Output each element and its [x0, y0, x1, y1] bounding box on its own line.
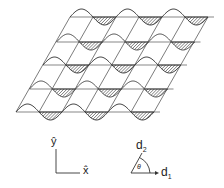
lattice-line	[62, 17, 116, 112]
lattice-line	[16, 17, 70, 112]
theta-label: θ	[137, 163, 141, 170]
wave-crest	[108, 104, 131, 112]
wave-trough-shaded	[85, 112, 108, 120]
lattice-line	[154, 17, 208, 112]
wave-trough-shaded	[99, 89, 122, 97]
wave-trough-shaded	[139, 17, 162, 25]
d2-symbol: d	[136, 138, 143, 152]
wave-trough-shaded	[145, 89, 168, 97]
lattice-line	[39, 17, 93, 112]
wave-crest	[116, 9, 139, 17]
lattice-lines	[16, 17, 208, 112]
wave-crest	[62, 104, 85, 112]
wave-trough-shaded	[93, 17, 116, 25]
wave-crest	[16, 104, 39, 112]
wave-rows	[16, 9, 214, 120]
d1-label: d1	[161, 166, 172, 180]
x-axis-label: x̂	[83, 165, 89, 176]
d1-arrowhead-icon	[155, 171, 159, 175]
wave-trough-shaded	[66, 65, 89, 73]
wave-trough-shaded	[126, 42, 149, 50]
wave-trough-shaded	[185, 17, 208, 25]
lattice-vector-angle-icon	[131, 153, 155, 173]
lattice-line	[85, 17, 139, 112]
lattice-line	[131, 17, 185, 112]
wave-crest	[162, 9, 185, 17]
lattice-line	[108, 17, 162, 112]
d1-subscript: 1	[168, 173, 172, 180]
xy-axes-icon	[56, 149, 80, 173]
y-axis-label: ŷ	[51, 136, 57, 147]
lattice-diagram	[0, 0, 224, 188]
d1-symbol: d	[161, 165, 168, 179]
wave-trough-shaded	[80, 42, 103, 50]
wave-crest	[70, 9, 93, 17]
wave-trough-shaded	[112, 65, 135, 73]
wave-trough-shaded	[158, 65, 181, 73]
wave-trough-shaded	[53, 89, 76, 97]
d2-label: d2	[136, 139, 147, 153]
wave-trough-shaded	[39, 112, 62, 120]
wave-trough-shaded	[131, 112, 154, 120]
wave-trough-shaded	[172, 42, 195, 50]
d2-subscript: 2	[143, 146, 147, 153]
